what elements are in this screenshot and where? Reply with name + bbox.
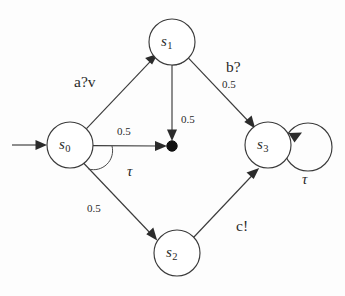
edge-s1-to-s3 (189, 58, 256, 128)
state-label-s1: s1 (161, 34, 172, 51)
branch-point-dot[interactable] (167, 141, 177, 151)
initial-state-arrow (12, 140, 47, 150)
edge-s1-to-branch-dot (167, 65, 177, 141)
edge-label-c-output: c! (236, 218, 248, 234)
edge-label-tau-s0: τ (127, 164, 132, 179)
automaton-diagram: s0 s1 s2 s3 a?v b? 0.5 0.5 0.5 τ 0.5 c! … (0, 0, 345, 296)
edge-s2-to-s3 (194, 168, 260, 238)
edge-s0-to-s1 (87, 54, 158, 129)
self-loop-label-tau-s3: τ (302, 172, 307, 187)
state-label-s2: s2 (166, 245, 177, 262)
edge-prob-s0-to-s2: 0.5 (87, 203, 101, 214)
edge-prob-s1-to-dot: 0.5 (181, 114, 195, 125)
state-label-s3: s3 (257, 137, 268, 154)
edge-prob-s0-to-dot: 0.5 (117, 126, 131, 137)
edge-label-a-input: a?v (74, 74, 96, 90)
edge-prob-s1-to-s3: 0.5 (222, 79, 236, 90)
state-label-s0: s0 (59, 137, 70, 154)
edge-s0-to-branch-dot (93, 141, 167, 151)
edge-label-b-input: b? (226, 59, 241, 75)
